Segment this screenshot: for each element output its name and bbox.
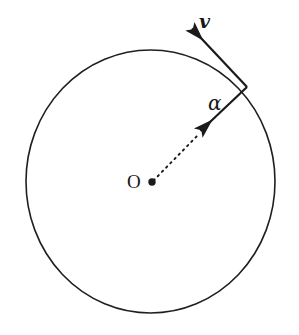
geometry-diagram-svg <box>0 0 299 335</box>
figure-canvas: v α O <box>0 0 299 335</box>
velocity-label: v <box>199 12 210 31</box>
center-o-label: O <box>127 172 141 191</box>
center-point <box>148 178 155 185</box>
angle-alpha-label: α <box>208 93 222 113</box>
velocity-vector-arrow <box>192 29 247 88</box>
radius-dashed-line <box>154 135 199 181</box>
